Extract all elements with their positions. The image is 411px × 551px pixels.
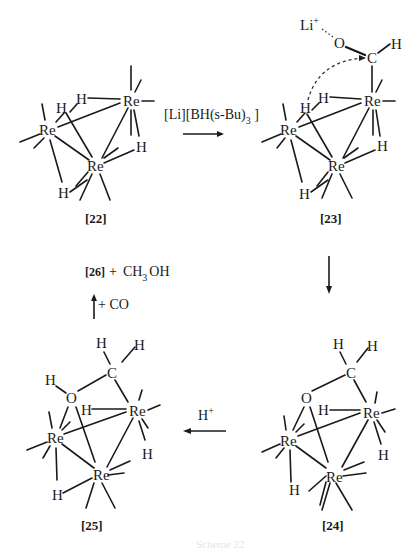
h-atom: H: [367, 338, 378, 354]
h-atom: H: [318, 90, 329, 106]
reagent-label: H+: [198, 405, 214, 423]
h-atom: H: [318, 402, 329, 418]
h-atom: H: [289, 482, 300, 498]
h-atom: H: [299, 186, 310, 202]
re-atom: Re: [47, 430, 64, 446]
reaction-arrow-right: [Li][BH(s-Bu)3 ]: [164, 107, 259, 137]
re-atom: Re: [129, 403, 146, 419]
h-atom: H: [52, 487, 63, 503]
c-atom: C: [346, 365, 356, 381]
re-atom: Re: [123, 93, 140, 109]
compound-22: Re Re Re H H H H [22]: [20, 66, 154, 226]
compound-23: Li+ O C H Re Re: [262, 15, 402, 226]
reaction-arrow-up: + CO: [91, 294, 129, 319]
reagent-label: [Li][BH(s-Bu)3 ]: [164, 107, 259, 126]
h-atom: H: [134, 337, 145, 353]
scheme-caption: Scheme 22: [196, 538, 245, 550]
re-atom: Re: [39, 122, 56, 138]
compound-25: H H C H O Re Re Re: [27, 335, 160, 533]
product-formula: [26]+CH3OH: [85, 264, 170, 283]
re-atom: Re: [280, 122, 297, 138]
compound-label-24: [24]: [322, 518, 344, 533]
reaction-arrow-left: H+: [183, 405, 226, 434]
h-atom: H: [142, 446, 153, 462]
o-atom: O: [301, 390, 312, 406]
h-atom: H: [81, 402, 92, 418]
re-atom: Re: [87, 158, 104, 174]
re-atom: Re: [326, 469, 343, 485]
re-atom: Re: [363, 405, 380, 421]
c-atom: C: [367, 50, 377, 66]
o-atom: O: [66, 390, 77, 406]
h-atom: H: [96, 335, 107, 351]
reaction-scheme: Re Re Re H H H H [22] [Li][BH(s-Bu)3 ] L…: [0, 0, 411, 551]
products: [26]+CH3OH: [85, 264, 170, 283]
reaction-arrow-down: [326, 256, 332, 294]
h-atom: H: [378, 447, 389, 463]
compound-24: H H C O Re Re Re H: [262, 336, 395, 533]
compound-label-23: [23]: [320, 211, 342, 226]
h-atom: H: [56, 100, 67, 116]
re-atom: Re: [93, 467, 110, 483]
compound-label-22: [22]: [85, 211, 107, 226]
reagent-label: + CO: [98, 297, 129, 312]
re-atom: Re: [280, 433, 297, 449]
h-atom: H: [58, 185, 69, 201]
h-atom: H: [45, 372, 56, 388]
h-atom: H: [300, 100, 311, 116]
h-atom: H: [377, 138, 388, 154]
o-atom: O: [334, 35, 345, 51]
re-atom: Re: [328, 158, 345, 174]
h-atom: H: [391, 36, 402, 52]
lithium-ion: Li+: [300, 15, 319, 33]
compound-label-25: [25]: [81, 518, 103, 533]
c-atom: C: [107, 365, 117, 381]
re-atom: Re: [364, 93, 381, 109]
h-atom: H: [76, 91, 87, 107]
h-atom: H: [333, 336, 344, 352]
h-atom: H: [136, 139, 147, 155]
